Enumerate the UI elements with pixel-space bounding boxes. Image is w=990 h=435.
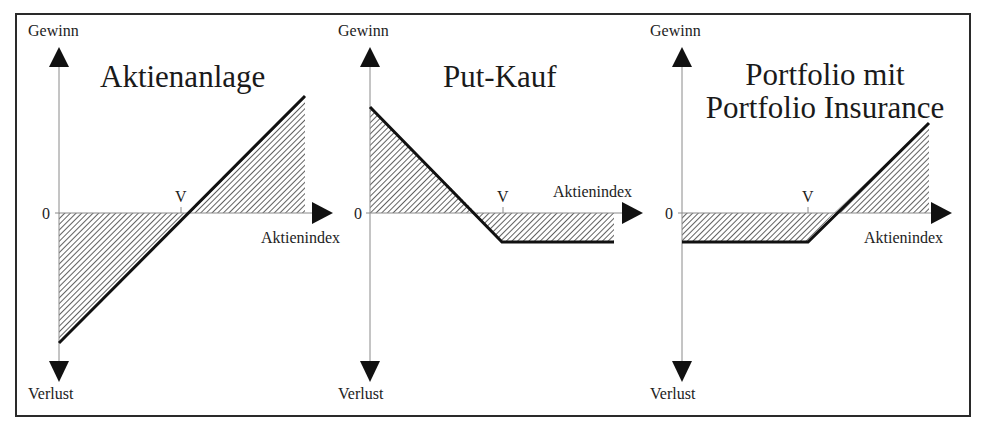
arrow-down-icon	[49, 361, 69, 382]
arrow-right-icon	[622, 202, 643, 224]
panel-aktienanlage	[49, 47, 333, 382]
strike-label: V	[802, 189, 814, 205]
y-axis-top-label: Gewinn	[28, 23, 79, 39]
panel-put-kauf	[360, 47, 643, 382]
arrow-right-icon	[931, 202, 952, 224]
strike-label: V	[175, 189, 187, 205]
x-axis-label: Aktienindex	[864, 230, 943, 246]
y-axis-top-label: Gewinn	[650, 23, 701, 39]
arrow-right-icon	[312, 202, 333, 224]
y-axis-bottom-label: Verlust	[650, 386, 695, 402]
arrow-up-icon	[672, 47, 692, 67]
panel-title-line2: Portfolio Insurance	[690, 91, 960, 124]
zero-label: 0	[42, 206, 50, 222]
zero-label: 0	[354, 206, 362, 222]
zero-label: 0	[665, 206, 673, 222]
strike-label: V	[497, 189, 509, 205]
x-axis-label: Aktienindex	[261, 230, 340, 246]
arrow-down-icon	[672, 361, 692, 382]
y-axis-bottom-label: Verlust	[28, 386, 73, 402]
panel-title: Aktienanlage	[100, 60, 265, 93]
y-axis-bottom-label: Verlust	[338, 386, 383, 402]
arrow-up-icon	[49, 47, 69, 67]
panel-title: Portfolio mit Portfolio Insurance	[690, 58, 960, 125]
y-axis-top-label: Gewinn	[338, 23, 389, 39]
arrow-up-icon	[360, 47, 380, 67]
panel-title: Put-Kauf	[443, 60, 557, 93]
arrow-down-icon	[360, 361, 380, 382]
x-axis-label: Aktienindex	[553, 184, 632, 200]
panel-title-line1: Portfolio mit	[690, 58, 960, 91]
